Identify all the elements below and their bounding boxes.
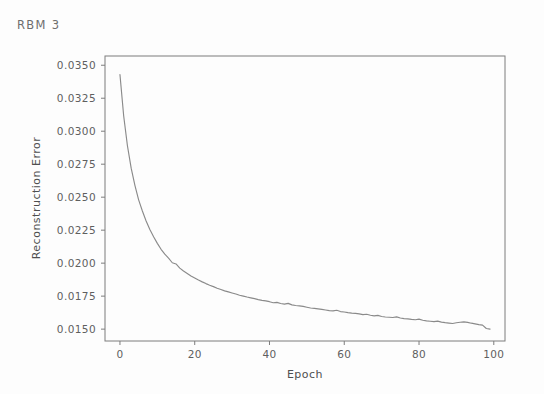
chart-figure: RBM 3 0.01500.01750.02000.02250.02500.02… xyxy=(0,0,544,394)
y-axis-title: Reconstruction Error xyxy=(30,137,43,260)
axes-frame xyxy=(105,56,505,341)
y-tick-label: 0.0250 xyxy=(57,191,96,203)
y-tick-label: 0.0275 xyxy=(57,158,96,170)
x-tick-label: 20 xyxy=(188,348,202,360)
x-tick-label: 100 xyxy=(483,348,504,360)
y-tick-label: 0.0300 xyxy=(57,125,96,137)
x-axis-ticks: 020406080100 xyxy=(116,341,504,360)
y-tick-label: 0.0350 xyxy=(57,59,96,71)
y-tick-label: 0.0225 xyxy=(57,224,96,236)
y-tick-label: 0.0150 xyxy=(57,323,96,335)
x-tick-label: 0 xyxy=(116,348,123,360)
reconstruction-error-line xyxy=(120,74,490,329)
x-tick-label: 60 xyxy=(337,348,351,360)
plot-area-border xyxy=(105,56,505,341)
y-tick-label: 0.0200 xyxy=(57,257,96,269)
line-chart-plot: 0.01500.01750.02000.02250.02500.02750.03… xyxy=(0,0,544,394)
y-tick-label: 0.0325 xyxy=(57,92,96,104)
x-tick-label: 40 xyxy=(262,348,276,360)
x-axis-title: Epoch xyxy=(287,368,323,381)
y-axis-ticks: 0.01500.01750.02000.02250.02500.02750.03… xyxy=(57,59,105,335)
x-tick-label: 80 xyxy=(412,348,426,360)
y-tick-label: 0.0175 xyxy=(57,290,96,302)
